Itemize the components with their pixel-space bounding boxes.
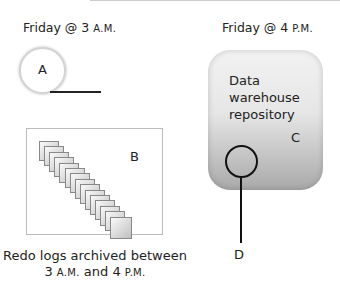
right-title: Friday @ 4 P.M. xyxy=(222,20,313,35)
caption-line-2: 3 A.M. and 4 P.M. xyxy=(0,264,190,281)
redo-logs-box: B xyxy=(26,128,163,235)
repository-line-3: repository xyxy=(229,106,300,123)
redo-log-page xyxy=(110,217,132,239)
point-d-label: D xyxy=(234,247,244,262)
repository-line-2: warehouse xyxy=(229,89,300,106)
point-d-circle xyxy=(225,145,258,178)
box-b-label: B xyxy=(130,149,139,164)
left-title-text: Friday @ 3 xyxy=(23,20,93,35)
point-a-label: A xyxy=(21,62,64,77)
caption-line-1: Redo logs archived between xyxy=(0,248,190,264)
right-title-text: Friday @ 4 xyxy=(222,20,292,35)
repository-line-1: Data xyxy=(229,72,300,89)
repository-text: Data warehouse repository xyxy=(229,72,300,123)
top-divider xyxy=(90,0,340,1)
right-title-suffix: P.M. xyxy=(292,23,313,34)
data-warehouse-repository: Data warehouse repository C xyxy=(208,50,323,190)
repository-c-label: C xyxy=(291,130,300,145)
left-title: Friday @ 3 A.M. xyxy=(23,20,116,35)
caption-time-3: 3 xyxy=(44,264,56,279)
caption-and-4: and 4 xyxy=(80,264,125,279)
point-a-circle: A xyxy=(19,47,66,94)
point-d-line xyxy=(240,178,242,243)
caption-am: A.M. xyxy=(57,267,80,278)
redo-logs-caption: Redo logs archived between 3 A.M. and 4 … xyxy=(0,248,190,281)
point-a-line xyxy=(50,91,101,93)
left-title-suffix: A.M. xyxy=(93,23,116,34)
caption-pm: P.M. xyxy=(125,267,146,278)
